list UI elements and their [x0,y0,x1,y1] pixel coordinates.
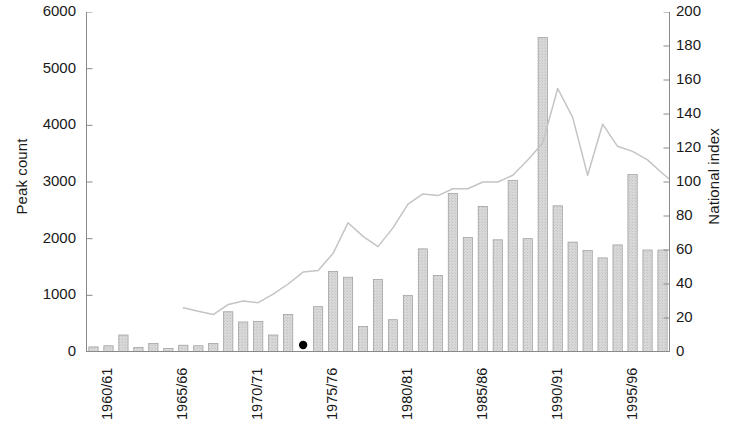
x-axis-tick-label: 1975/76 [324,368,340,420]
x-axis-tick-label: 1985/86 [474,368,490,420]
bar [403,295,412,352]
bar [568,242,577,352]
bar [239,322,248,352]
bar [523,239,532,352]
bar [284,315,293,352]
bar [553,206,562,352]
bar [179,345,188,352]
bar [418,249,427,352]
x-axis-tick-label: 1970/71 [249,368,265,420]
bar [328,272,337,352]
bar [658,250,667,352]
plot-area [86,12,670,352]
bar [538,38,547,353]
plot-canvas [86,12,670,352]
chart-figure: Peak count National index 01000200030004… [0,0,733,435]
bar [628,175,637,352]
bar [358,327,367,353]
bar [493,240,502,352]
bar [149,344,158,353]
bar-series [89,38,667,353]
bar [269,335,278,352]
bar [313,307,322,352]
bar [643,250,652,352]
x-axis-tick-label: 1995/96 [624,368,640,420]
bar [119,335,128,352]
zero-value-marker [299,341,307,349]
bar [463,238,472,352]
marker-series [299,341,307,349]
bar [508,180,517,352]
x-axis-tick-label: 1965/66 [174,368,190,420]
x-axis-tick-label: 1960/61 [99,368,115,420]
bar [254,321,263,352]
bar [598,258,607,352]
bar [373,279,382,352]
bar [209,344,218,353]
x-axis-tick-label: 1980/81 [399,368,415,420]
bar [583,251,592,352]
bar [343,277,352,352]
bar [478,206,487,352]
bar [433,276,442,353]
bar [388,320,397,352]
bar [224,312,233,352]
bar [448,193,457,352]
x-axis-tick-label: 1990/91 [549,368,565,420]
bar [613,245,622,352]
